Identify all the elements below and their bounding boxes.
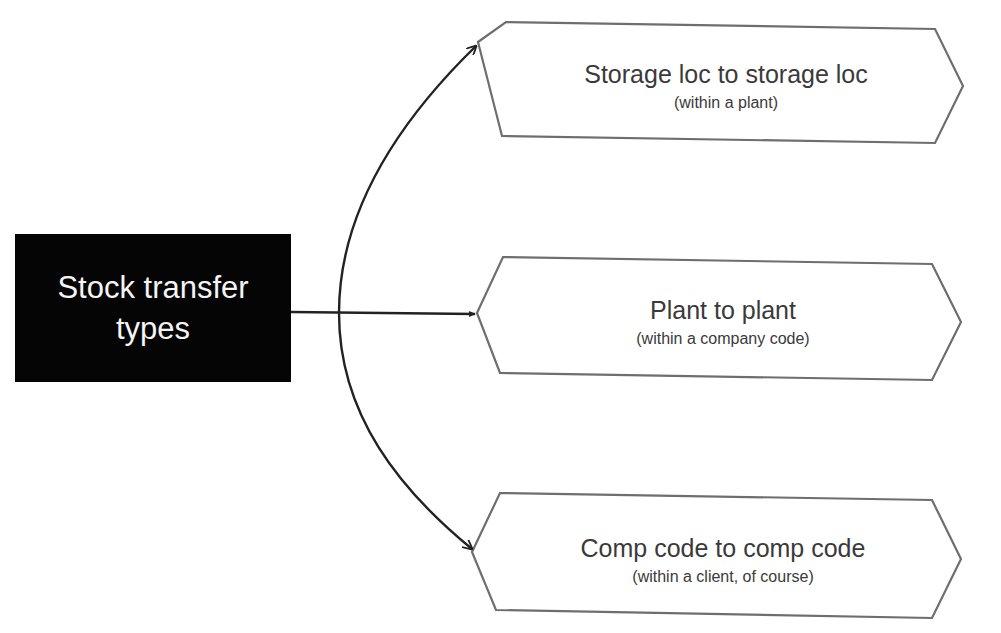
- node-subtitle: (within a client, of course): [632, 565, 813, 589]
- root-node-stock-transfer-types: Stock transfer types: [15, 234, 291, 382]
- node-subtitle: (within a plant): [674, 91, 778, 115]
- node-plant-to-plant: Plant to plant (within a company code): [503, 270, 943, 374]
- root-node-label-line1: Stock transfer: [57, 267, 248, 308]
- root-node-label-line2: types: [116, 308, 190, 349]
- node-subtitle: (within a company code): [636, 327, 809, 351]
- node-title: Storage loc to storage loc: [584, 57, 868, 91]
- connector-to-storage-loc: [339, 46, 476, 313]
- connector-to-plant: [291, 312, 475, 314]
- node-title: Plant to plant: [650, 293, 796, 327]
- node-title: Comp code to comp code: [581, 531, 866, 565]
- node-comp-code-to-comp-code: Comp code to comp code (within a client,…: [500, 508, 946, 612]
- node-storage-loc-to-storage-loc: Storage loc to storage loc (within a pla…: [506, 36, 946, 136]
- connector-to-comp-code: [339, 313, 472, 549]
